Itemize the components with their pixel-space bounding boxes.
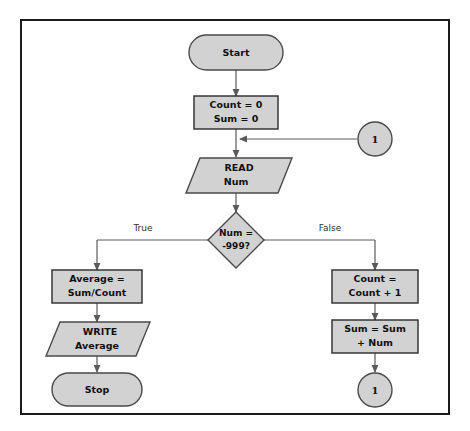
node-sum-accumulate-line2: + Num [357,337,393,348]
node-init[interactable]: Count = 0 Sum = 0 [194,96,278,129]
node-count-increment[interactable]: Count = Count + 1 [332,270,418,303]
node-sum-accumulate-line1: Sum = Sum [344,323,406,334]
node-connector-top-label: 1 [372,134,379,145]
flowchart-canvas: Start Count = 0 Sum = 0 READ Num Num = -… [0,0,470,431]
node-write-line2: Average [75,340,119,351]
node-average-line2: Sum/Count [68,287,127,298]
node-read[interactable]: READ Num [186,158,292,193]
node-read-line2: Num [224,176,249,187]
node-decision-line1: Num = [219,228,253,238]
node-connector-top[interactable]: 1 [358,122,392,156]
node-average-line1: Average = [69,273,124,284]
node-decision[interactable]: Num = -999? [208,212,264,268]
node-connector-bottom-label: 1 [372,385,379,396]
node-init-line2: Sum = 0 [214,113,259,124]
node-read-line1: READ [224,162,253,173]
node-write-line1: WRITE [83,326,117,337]
flowchart-page: Start Count = 0 Sum = 0 READ Num Num = -… [0,0,470,431]
node-start[interactable]: Start [189,35,283,70]
node-average[interactable]: Average = Sum/Count [52,270,142,303]
node-start-label: Start [222,47,249,58]
node-count-increment-line1: Count = [354,273,397,284]
node-sum-accumulate[interactable]: Sum = Sum + Num [332,320,418,353]
node-stop-label: Stop [85,384,110,395]
branch-label-false: False [319,223,342,233]
node-decision-line2: -999? [222,241,250,251]
branch-label-true: True [132,223,153,233]
node-count-increment-line2: Count + 1 [349,287,402,298]
node-connector-bottom[interactable]: 1 [358,373,392,407]
node-write[interactable]: WRITE Average [46,322,150,356]
node-stop[interactable]: Stop [52,373,142,406]
node-init-line1: Count = 0 [210,99,263,110]
